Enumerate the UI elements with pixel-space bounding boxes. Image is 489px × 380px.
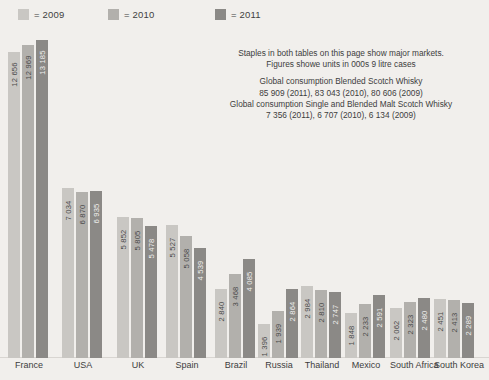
bar-usa-2009[interactable]: 7 034 (62, 188, 74, 358)
bar-value-label: 2 864 (288, 301, 297, 321)
bar-value-label: 2 413 (450, 312, 459, 332)
bar-value-label: 12 969 (24, 55, 33, 79)
bar-value-label: 5 852 (119, 229, 128, 249)
bar-usa-2011[interactable]: 6 935 (90, 191, 102, 358)
bar-group: 2 0622 3232 480 (390, 298, 430, 358)
legend-swatch-2009 (18, 9, 29, 20)
bar-value-label: 2 984 (303, 298, 312, 318)
bar-south-africa-2009[interactable]: 2 062 (390, 308, 402, 358)
bar-chart: = 2009 = 2010 = 2011 Staples in both tab… (0, 0, 489, 380)
bar-group: 2 9842 8102 747 (301, 286, 341, 358)
bar-group: 1 3961 9392 864 (258, 289, 298, 358)
bar-group: 5 8525 8055 478 (117, 217, 157, 358)
bar-south-korea-2010[interactable]: 2 413 (448, 300, 460, 358)
bar-group: 2 8403 4684 085 (215, 259, 255, 358)
x-label-thailand: Thailand (301, 360, 343, 370)
bar-uk-2010[interactable]: 5 805 (131, 218, 143, 358)
bar-value-label: 12 656 (10, 62, 19, 86)
bar-france-2011[interactable]: 13 185 (36, 40, 48, 358)
bar-thailand-2009[interactable]: 2 984 (301, 286, 313, 358)
x-label-uk: UK (117, 360, 159, 370)
bar-value-label: 13 185 (38, 50, 47, 74)
bar-value-label: 6 870 (78, 204, 87, 224)
bar-value-label: 3 468 (231, 286, 240, 306)
x-label-south-africa: South Africa (390, 360, 432, 370)
bar-value-label: 2 062 (392, 320, 401, 340)
bar-value-label: 2 480 (420, 310, 429, 330)
x-label-france: France (8, 360, 50, 370)
bar-france-2009[interactable]: 12 656 (8, 52, 20, 358)
bar-group: 1 8482 2332 591 (345, 295, 385, 358)
bar-value-label: 4 085 (245, 271, 254, 291)
bar-value-label: 2 289 (464, 315, 473, 335)
x-axis-labels: FranceUSAUKSpainBrazilRussiaThailandMexi… (0, 360, 489, 376)
bar-value-label: 1 396 (260, 336, 269, 356)
bar-brazil-2011[interactable]: 4 085 (243, 259, 255, 358)
bar-group: 7 0346 8706 935 (62, 188, 102, 358)
bar-value-label: 5 478 (147, 238, 156, 258)
bar-russia-2011[interactable]: 2 864 (286, 289, 298, 358)
bar-spain-2009[interactable]: 5 527 (166, 225, 178, 358)
legend-swatch-2011 (215, 9, 226, 20)
bar-thailand-2010[interactable]: 2 810 (315, 290, 327, 358)
bar-brazil-2009[interactable]: 2 840 (215, 289, 227, 358)
bar-value-label: 5 805 (133, 230, 142, 250)
bar-value-label: 1 939 (274, 323, 283, 343)
bar-usa-2010[interactable]: 6 870 (76, 192, 88, 358)
x-label-spain: Spain (166, 360, 208, 370)
x-label-usa: USA (62, 360, 104, 370)
bar-value-label: 2 233 (361, 316, 370, 336)
legend-label-2010: = 2010 (124, 9, 155, 20)
bar-value-label: 6 935 (92, 203, 101, 223)
legend-label-2011: = 2011 (231, 9, 261, 20)
bar-mexico-2010[interactable]: 2 233 (359, 304, 371, 358)
x-label-mexico: Mexico (345, 360, 387, 370)
x-label-russia: Russia (258, 360, 300, 370)
bar-south-korea-2011[interactable]: 2 289 (462, 303, 474, 358)
bar-mexico-2011[interactable]: 2 591 (373, 295, 385, 358)
bar-spain-2010[interactable]: 5 058 (180, 236, 192, 358)
x-label-brazil: Brazil (215, 360, 257, 370)
bar-value-label: 2 810 (317, 302, 326, 322)
bar-mexico-2009[interactable]: 1 848 (345, 313, 357, 358)
bar-value-label: 2 840 (217, 301, 226, 321)
bar-france-2010[interactable]: 12 969 (22, 45, 34, 358)
plot-area: 12 65612 96913 1857 0346 8706 9355 8525 … (0, 28, 489, 358)
bar-spain-2011[interactable]: 4 539 (194, 248, 206, 358)
legend-item-2010: = 2010 (108, 9, 155, 20)
bar-group: 5 5275 0584 539 (166, 225, 206, 358)
legend-label-2009: = 2009 (34, 9, 65, 20)
bar-group: 2 4512 4132 289 (434, 299, 474, 358)
bar-russia-2009[interactable]: 1 396 (258, 324, 270, 358)
bar-value-label: 7 034 (64, 200, 73, 220)
bar-brazil-2010[interactable]: 3 468 (229, 274, 241, 358)
bar-value-label: 2 591 (375, 307, 384, 327)
bar-russia-2010[interactable]: 1 939 (272, 311, 284, 358)
bar-value-label: 2 451 (436, 311, 445, 331)
bar-value-label: 2 747 (331, 304, 340, 324)
bar-thailand-2011[interactable]: 2 747 (329, 292, 341, 358)
bar-value-label: 1 848 (347, 325, 356, 345)
legend-item-2009: = 2009 (18, 9, 65, 20)
bar-value-label: 2 323 (406, 314, 415, 334)
bar-value-label: 4 539 (196, 260, 205, 280)
bar-value-label: 5 527 (168, 237, 177, 257)
legend-item-2011: = 2011 (215, 9, 261, 20)
bar-uk-2009[interactable]: 5 852 (117, 217, 129, 358)
bar-south-korea-2009[interactable]: 2 451 (434, 299, 446, 358)
legend-swatch-2010 (108, 9, 119, 20)
chart-legend: = 2009 = 2010 = 2011 (0, 9, 489, 27)
x-label-south-korea: South Korea (434, 360, 476, 370)
bar-group: 12 65612 96913 185 (8, 40, 48, 358)
bar-value-label: 5 058 (182, 248, 191, 268)
bar-south-africa-2011[interactable]: 2 480 (418, 298, 430, 358)
bar-uk-2011[interactable]: 5 478 (145, 226, 157, 358)
bar-south-africa-2010[interactable]: 2 323 (404, 302, 416, 358)
